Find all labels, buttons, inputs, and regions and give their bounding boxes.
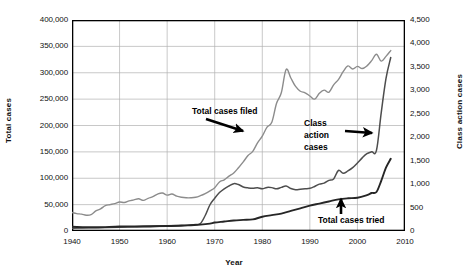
y-axis-right-title: Class action cases (455, 67, 464, 157)
y-axis-right-tick-label: 3,000 (410, 85, 430, 94)
annotation-total-cases-filed: Total cases filed (192, 106, 258, 117)
y-axis-left-title: Total cases (4, 86, 13, 156)
y-axis-right-tick-label: 1,500 (410, 156, 430, 165)
y-axis-left-tick-label: 350,000 (16, 41, 68, 50)
y-axis-right-tick-label: 2,000 (410, 132, 430, 141)
annotation-class-line-2: action (304, 130, 329, 140)
y-axis-right-tick-label: 3,500 (410, 62, 430, 71)
plot-svg (72, 20, 405, 231)
chart-figure: Total cases Class action cases Year 050,… (0, 0, 468, 277)
x-axis-tick-label: 2000 (337, 237, 377, 246)
y-axis-left-tick-label: 0 (16, 226, 68, 235)
x-axis-tick-label: 1980 (242, 237, 282, 246)
y-axis-right-tick-label: 2,500 (410, 109, 430, 118)
y-axis-right-tick-label: 1,000 (410, 179, 430, 188)
y-axis-right-tick-label: 4,500 (410, 15, 430, 24)
x-axis-tick-label: 1940 (52, 237, 92, 246)
y-axis-left-tick-label: 250,000 (16, 94, 68, 103)
x-axis-tick-label: 1950 (100, 237, 140, 246)
annotation-class-line-1: Class (304, 118, 327, 128)
x-axis-tick-label: 1970 (195, 237, 235, 246)
annotation-class-action-cases: Class action cases (304, 117, 344, 153)
x-axis-tick-label: 1960 (147, 237, 187, 246)
x-axis-tick-label: 1990 (290, 237, 330, 246)
annotation-total-cases-tried: Total cases tried (318, 215, 384, 226)
y-axis-left-tick-label: 300,000 (16, 68, 68, 77)
y-axis-left-tick-label: 200,000 (16, 121, 68, 130)
y-axis-right-tick-label: 500 (410, 203, 423, 212)
annotation-class-line-3: cases (304, 142, 328, 152)
y-axis-left-tick-label: 400,000 (16, 15, 68, 24)
x-axis-title: Year (0, 258, 468, 267)
plot-area (72, 20, 405, 231)
y-axis-right-tick-label: 0 (410, 226, 414, 235)
y-axis-left-tick-label: 150,000 (16, 147, 68, 156)
y-axis-left-tick-label: 50,000 (16, 200, 68, 209)
x-axis-tick-label: 2010 (385, 237, 425, 246)
y-axis-right-tick-label: 4,000 (410, 38, 430, 47)
y-axis-left-tick-label: 100,000 (16, 173, 68, 182)
